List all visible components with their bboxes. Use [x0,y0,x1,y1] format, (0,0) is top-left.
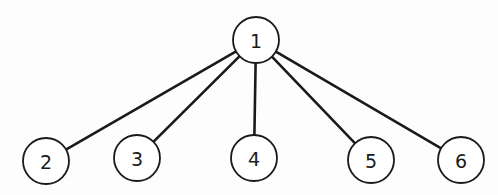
tree-diagram: 123456 [0,0,498,195]
edge-1-2 [66,51,236,149]
node-2: 2 [23,138,69,184]
node-5: 5 [348,137,394,183]
edge-1-6 [276,52,441,149]
edge-1-4 [254,63,255,135]
node-label: 6 [455,150,467,172]
node-6: 6 [438,137,484,183]
node-label: 5 [365,150,377,172]
node-1: 1 [233,17,279,63]
node-label: 3 [131,148,143,170]
node-label: 2 [40,151,52,173]
node-4: 4 [231,135,277,181]
edge-1-3 [153,56,239,142]
nodes: 123456 [23,17,484,184]
edge-1-5 [272,57,355,144]
node-label: 1 [250,30,262,52]
node-3: 3 [114,135,160,181]
node-label: 4 [248,148,260,170]
